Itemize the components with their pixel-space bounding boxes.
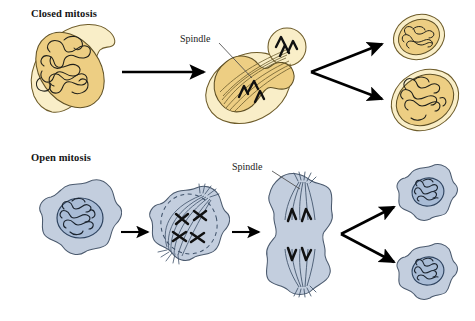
closed-daughter-large-nucleus [387,64,463,136]
spindle-label-closed: Spindle [180,33,211,44]
closed-arrow-2-upper [311,44,382,72]
closed-daughter-large [380,57,470,142]
open-cell-membrane-2 [150,186,230,260]
closed-mitosis-row [22,7,470,143]
open-nucleus-1 [57,198,103,238]
open-stage-metaphase [150,184,230,264]
open-stage-interphase [40,180,122,255]
mitosis-diagram: Closed mitosis Open mitosis Spindle Spin… [0,0,475,321]
open-cell-membrane-3 [266,174,332,295]
closed-daughter-small [387,7,452,67]
open-arrow-3-upper [341,207,394,234]
open-arrow-3-lower [341,234,394,262]
open-daughter-bottom [397,244,457,300]
closed-stage-interphase [22,19,119,121]
open-mitosis-row [40,165,458,300]
spindle-label-open: Spindle [232,161,263,172]
open-stage-anaphase [266,172,332,297]
closed-mitosis-title: Closed mitosis [31,8,97,19]
open-daughter-top [397,165,457,221]
open-mitosis-title: Open mitosis [31,152,91,163]
closed-arrow-2-lower [311,72,382,99]
closed-stage-mitosis [194,28,306,137]
